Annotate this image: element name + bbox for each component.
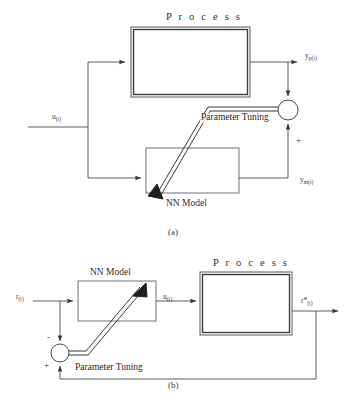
caption-b: (b) (168, 381, 179, 390)
nn-model-label-a: NN Model (166, 199, 207, 209)
output-signal-label-b: r*(t) (301, 297, 313, 305)
sum-plus-sign-a: + (296, 136, 301, 145)
model-output-label-a: ym(t) (300, 176, 313, 184)
nn-model-block-a (146, 148, 239, 193)
process-block-b (200, 272, 292, 335)
process-output-sub-a: p(t) (309, 55, 317, 61)
figure-nn-control-block-diagrams: P r o c e s s u(t) yp(t) ym(t) Parameter… (0, 0, 355, 406)
input-signal-label-a: u(t) (52, 113, 61, 121)
parameter-tuning-arrow-b (69, 283, 147, 355)
parameter-tuning-label-b: Parameter Tuning (74, 363, 144, 373)
process-output-label-a: yp(t) (305, 52, 317, 60)
control-signal-sub-b: (t) (167, 296, 172, 302)
caption-a: (a) (168, 228, 178, 237)
reference-input-sub-b: (t) (19, 296, 24, 302)
summing-junction-a (278, 100, 298, 120)
parameter-tuning-label-a: Parameter Tuning (200, 113, 270, 123)
process-title-a: P r o c e s s (166, 12, 242, 23)
process-block-a (131, 27, 250, 97)
sum-minus-sign-b: - (47, 333, 50, 342)
output-signal-sub-b: (t) (307, 300, 312, 306)
model-output-sub-a: m(t) (304, 179, 314, 185)
reference-input-label-b: r(t) (16, 293, 24, 301)
input-signal-sub-a: (t) (56, 116, 61, 122)
sum-plus-sign-b: + (44, 361, 49, 370)
process-title-b: P r o c e s s (213, 258, 289, 269)
summing-junction-b (51, 344, 69, 362)
nn-model-label-b: NN Model (90, 268, 131, 278)
control-signal-label-b: u(t) (163, 293, 172, 301)
